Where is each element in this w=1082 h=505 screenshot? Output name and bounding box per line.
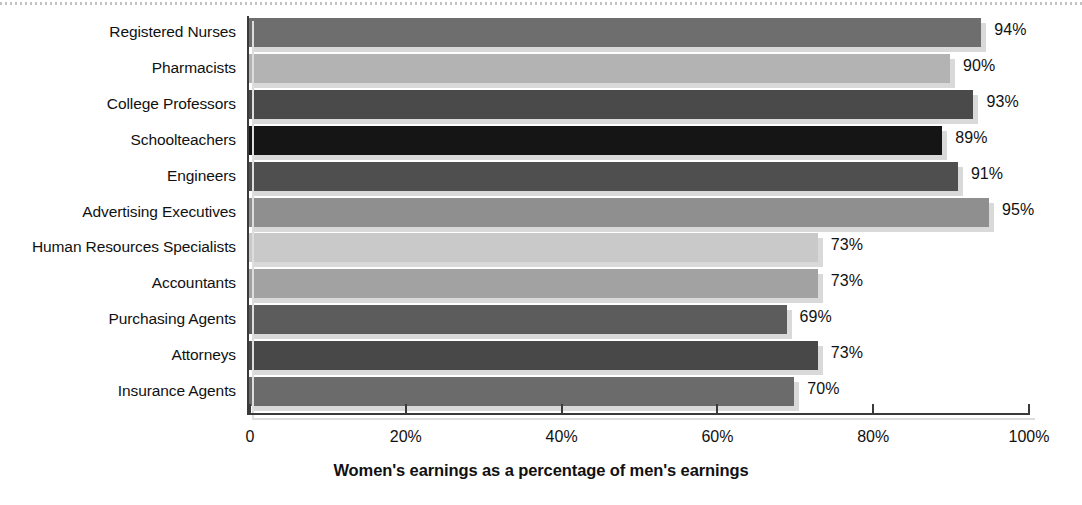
category-axis-shadow bbox=[252, 418, 1035, 420]
bar-value-label: 94% bbox=[994, 21, 1026, 39]
bar-row: 73% bbox=[249, 269, 1028, 303]
bar-fill bbox=[249, 233, 818, 262]
category-axis-line bbox=[247, 413, 1030, 415]
bar[interactable] bbox=[249, 162, 958, 191]
x-axis-tick-label: 100% bbox=[1009, 428, 1050, 446]
bars-container: 94%90%93%89%91%95%73%73%69%73%70% bbox=[249, 18, 1028, 395]
bar[interactable] bbox=[249, 377, 794, 406]
bar-row: 89% bbox=[249, 126, 1028, 160]
bar[interactable] bbox=[249, 126, 942, 155]
bar-row: 93% bbox=[249, 90, 1028, 124]
bar-value-label: 73% bbox=[831, 344, 863, 362]
bar-row: 94% bbox=[249, 18, 1028, 52]
x-axis-tick bbox=[1028, 404, 1030, 414]
bar[interactable] bbox=[249, 341, 818, 370]
bar[interactable] bbox=[249, 305, 787, 334]
bar-row: 95% bbox=[249, 198, 1028, 232]
bar-row: 70% bbox=[249, 377, 1028, 411]
bar-row: 73% bbox=[249, 233, 1028, 267]
category-label: Registered Nurses bbox=[0, 23, 236, 41]
bar[interactable] bbox=[249, 269, 818, 298]
bar-fill bbox=[249, 126, 942, 155]
x-axis-tick-label: 40% bbox=[546, 428, 578, 446]
bar-value-label: 69% bbox=[800, 308, 832, 326]
x-axis-tick-label: 80% bbox=[857, 428, 889, 446]
bar-fill bbox=[249, 305, 787, 334]
category-label: Pharmacists bbox=[0, 59, 236, 77]
bar[interactable] bbox=[249, 198, 989, 227]
bar-value-label: 90% bbox=[963, 57, 995, 75]
bar-row: 90% bbox=[249, 54, 1028, 88]
bar-fill bbox=[249, 18, 981, 47]
category-label: Human Resources Specialists bbox=[0, 238, 236, 256]
bar[interactable] bbox=[249, 233, 818, 262]
bar-value-label: 73% bbox=[831, 272, 863, 290]
bar-row: 73% bbox=[249, 341, 1028, 375]
category-label: Purchasing Agents bbox=[0, 310, 236, 328]
bar-row: 69% bbox=[249, 305, 1028, 339]
x-axis-tick bbox=[405, 404, 407, 414]
bar-value-label: 93% bbox=[986, 93, 1018, 111]
bar-chart: Registered NursesPharmacistsCollege Prof… bbox=[0, 0, 1082, 505]
bar-fill bbox=[249, 269, 818, 298]
category-label: Advertising Executives bbox=[0, 203, 236, 221]
x-axis-tick bbox=[872, 404, 874, 414]
x-axis-tick-label: 20% bbox=[390, 428, 422, 446]
x-axis-tick bbox=[561, 404, 563, 414]
value-axis-shadow bbox=[252, 21, 254, 420]
bar-fill bbox=[249, 162, 958, 191]
x-axis-title: Women's earnings as a percentage of men'… bbox=[0, 461, 1082, 480]
value-axis-line bbox=[247, 16, 249, 415]
bar-value-label: 70% bbox=[807, 380, 839, 398]
bar[interactable] bbox=[249, 18, 981, 47]
bar-fill bbox=[249, 54, 950, 83]
bar-value-label: 91% bbox=[971, 165, 1003, 183]
category-label: Attorneys bbox=[0, 346, 236, 364]
bar-fill bbox=[249, 198, 989, 227]
category-label: Schoolteachers bbox=[0, 131, 236, 149]
x-axis-tick-label: 60% bbox=[701, 428, 733, 446]
x-axis-tick bbox=[716, 404, 718, 414]
category-label: Insurance Agents bbox=[0, 382, 236, 400]
x-axis-tick-label: 0 bbox=[246, 428, 255, 446]
bar-value-label: 73% bbox=[831, 236, 863, 254]
bar-row: 91% bbox=[249, 162, 1028, 196]
x-axis-tick bbox=[249, 404, 251, 414]
category-label: College Professors bbox=[0, 95, 236, 113]
bar-value-label: 89% bbox=[955, 129, 987, 147]
category-axis-labels: Registered NursesPharmacistsCollege Prof… bbox=[0, 18, 236, 395]
category-label: Engineers bbox=[0, 167, 236, 185]
bar[interactable] bbox=[249, 90, 973, 119]
bar-value-label: 95% bbox=[1002, 201, 1034, 219]
category-label: Accountants bbox=[0, 274, 236, 292]
bar-fill bbox=[249, 90, 973, 119]
bar-fill bbox=[249, 377, 794, 406]
bar-fill bbox=[249, 341, 818, 370]
bar[interactable] bbox=[249, 54, 950, 83]
